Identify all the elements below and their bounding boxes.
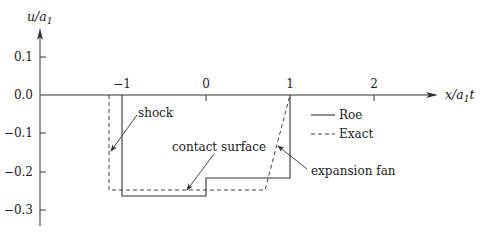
x-tick-label: 1 bbox=[286, 77, 294, 91]
x-tick-label: −1 bbox=[113, 77, 131, 91]
annotation-arrow-icon bbox=[187, 154, 214, 190]
annotation-shock-label: shock bbox=[138, 106, 174, 120]
annotation-arrow-icon bbox=[111, 115, 137, 151]
chart-canvas: u/a1 0.1 0.0 −0.1 −0.2 −0.3 x/a1t −1 0 1… bbox=[0, 0, 481, 236]
legend-roe-label: Roe bbox=[339, 108, 362, 122]
y-tick-label: 0.1 bbox=[14, 50, 33, 64]
x-tick-label: 2 bbox=[370, 77, 378, 91]
annotation-expansion: expansion fan bbox=[278, 146, 396, 178]
annotation-contact: contact surface bbox=[172, 140, 266, 190]
x-tick-label: 0 bbox=[202, 77, 210, 91]
y-tick-label: −0.1 bbox=[4, 126, 33, 140]
annotation-shock: shock bbox=[111, 106, 174, 151]
annotation-contact-label: contact surface bbox=[172, 140, 266, 154]
y-tick-label: −0.3 bbox=[4, 203, 33, 217]
y-tick-label: 0.0 bbox=[14, 88, 33, 102]
legend: Roe Exact bbox=[311, 108, 373, 141]
x-axis-label: x/a1t bbox=[445, 87, 475, 104]
y-axis: u/a1 0.1 0.0 −0.1 −0.2 −0.3 bbox=[4, 9, 53, 226]
y-tick-label: −0.2 bbox=[4, 165, 33, 179]
y-axis-label: u/a1 bbox=[27, 9, 52, 26]
annotation-arrow-icon bbox=[278, 146, 307, 169]
legend-exact-label: Exact bbox=[339, 127, 373, 141]
annotation-expansion-label: expansion fan bbox=[311, 164, 396, 178]
x-axis: x/a1t −1 0 1 2 bbox=[40, 77, 475, 104]
